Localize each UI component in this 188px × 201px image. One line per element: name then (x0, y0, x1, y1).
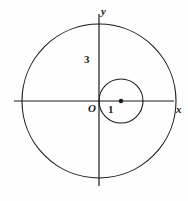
y-tick-label-3: 3 (84, 54, 90, 65)
x-axis-label: x (176, 104, 182, 115)
y-axis-label: y (101, 6, 106, 17)
figure-canvas (0, 0, 188, 201)
geometry-figure: y x O 1 3 (0, 0, 188, 201)
inner-circle-center-dot (119, 99, 123, 103)
x-tick-label-1: 1 (108, 104, 114, 115)
origin-label: O (88, 103, 96, 114)
